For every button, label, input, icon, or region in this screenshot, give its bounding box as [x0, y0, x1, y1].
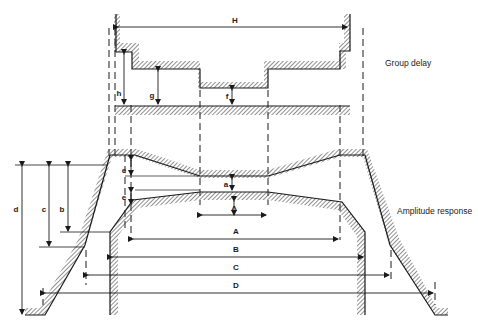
label-b: b	[60, 205, 65, 214]
label-a: a	[224, 180, 229, 189]
label-delta: Δ	[231, 204, 237, 213]
label-e-top: e	[122, 166, 127, 175]
label-C: C	[233, 263, 239, 272]
dimension-a: a	[224, 179, 232, 190]
amplitude-response-caption: Amplitude response	[397, 206, 472, 216]
dimension-B: B	[112, 245, 363, 257]
label-A: A	[233, 227, 239, 236]
dimension-b: b	[60, 166, 68, 231]
label-B: B	[233, 245, 239, 254]
dimension-f: f	[226, 90, 232, 104]
group-delay-upper-mask	[114, 14, 350, 88]
label-d: d	[14, 205, 19, 214]
label-e-bottom: e	[122, 193, 127, 202]
dimension-H: H	[118, 16, 347, 27]
dimension-delta: Δ	[202, 201, 266, 215]
dimension-A: A	[133, 227, 338, 239]
group-delay-caption: Group delay	[385, 58, 432, 68]
dimension-C: C	[88, 263, 389, 275]
label-f: f	[226, 92, 229, 101]
dimension-h: h	[117, 54, 124, 104]
dashed-guides	[43, 28, 435, 305]
dimension-d: d	[14, 166, 22, 314]
group-delay-lower-mask	[115, 106, 350, 115]
label-g: g	[150, 91, 155, 100]
label-c: c	[42, 205, 47, 214]
label-D: D	[233, 281, 239, 290]
dimension-c: c	[42, 166, 49, 246]
diagram-figure: H h g f Group delay Amplitude response e…	[0, 0, 478, 330]
dimension-D: D	[45, 281, 433, 293]
label-H: H	[232, 16, 238, 25]
label-h: h	[117, 89, 122, 98]
dimension-g: g	[150, 71, 158, 104]
tolerance-mask-diagram: H h g f Group delay Amplitude response e…	[0, 0, 478, 330]
